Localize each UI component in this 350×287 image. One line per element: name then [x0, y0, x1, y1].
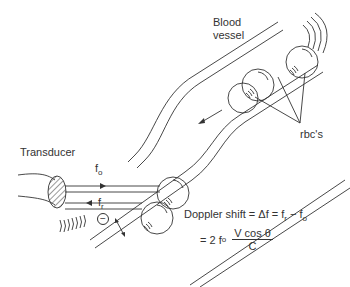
rbc-cell	[141, 202, 173, 234]
equation-text: = 2 f	[200, 234, 222, 246]
subscript: o	[303, 214, 307, 223]
fraction-numerator: V cos θ	[232, 227, 273, 240]
f-o-label: fo	[95, 162, 103, 177]
fraction: V cos θ C	[232, 227, 273, 252]
label-line: vessel	[213, 29, 244, 42]
tissue-marks-icon	[60, 215, 86, 232]
ultrasound-beams	[65, 183, 160, 209]
transducer-label: Transducer	[20, 146, 75, 158]
minus-sign: −	[100, 213, 106, 224]
doppler-equation: Doppler shift = Δf = fr − fo = 2 fo V co…	[184, 208, 307, 252]
subscript: o	[222, 235, 226, 244]
minus-circle-icon: −	[97, 213, 109, 225]
label-line: Blood	[213, 16, 244, 29]
rbc-pointer-lines	[255, 73, 305, 123]
doppler-diagram: Blood vessel rbc's Transducer fo fr − Do…	[0, 0, 350, 287]
equation-line-2: = 2 fo V cos θ C	[200, 227, 307, 252]
transducer-icon	[18, 174, 66, 208]
subscript: r	[101, 202, 104, 211]
equation-text: − f	[287, 208, 303, 220]
fraction-denominator: C	[249, 240, 257, 252]
f-r-label: fr	[98, 196, 104, 211]
rbcs-label: rbc's	[300, 128, 323, 140]
rbc-cell	[228, 83, 258, 113]
equation-text: Doppler shift = Δf = f	[184, 208, 284, 220]
flow-arrow-icon	[198, 110, 222, 124]
subscript: o	[98, 168, 102, 177]
rbc-cell	[286, 46, 318, 78]
equation-line-1: Doppler shift = Δf = fr − fo	[184, 208, 307, 223]
blood-vessel-label: Blood vessel	[213, 16, 244, 42]
